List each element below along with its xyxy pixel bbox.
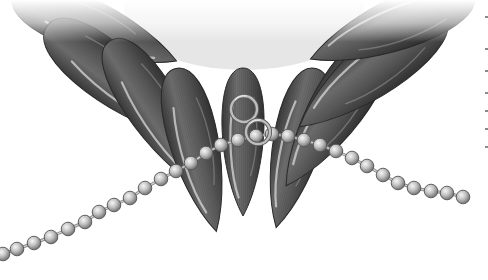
chain-bead bbox=[329, 144, 343, 158]
chain-bead bbox=[27, 236, 41, 250]
right-edge-marks bbox=[484, 0, 488, 160]
chain-bead bbox=[92, 205, 106, 219]
chain-bead bbox=[169, 164, 183, 178]
chain-bead bbox=[345, 151, 359, 165]
chain-bead bbox=[0, 247, 10, 261]
chain-bead bbox=[184, 156, 198, 170]
chain-bead bbox=[78, 215, 92, 229]
petal-fan-illustration bbox=[0, 0, 488, 280]
chain-bead bbox=[376, 168, 390, 182]
chain-bead bbox=[44, 230, 58, 244]
chain-bead bbox=[297, 133, 311, 147]
chain-bead bbox=[138, 181, 152, 195]
chain-bead bbox=[440, 186, 454, 200]
top-fade-overlay bbox=[0, 0, 488, 42]
chain-bead bbox=[231, 133, 245, 147]
chain-bead bbox=[313, 138, 327, 152]
chain-bead bbox=[10, 242, 24, 256]
chain-bead bbox=[61, 222, 75, 236]
chain-bead bbox=[391, 176, 405, 190]
chain-bead bbox=[199, 146, 213, 160]
chain-bead bbox=[456, 190, 470, 204]
chain-bead bbox=[123, 191, 137, 205]
chain-bead bbox=[214, 138, 228, 152]
chain-bead bbox=[424, 184, 438, 198]
chain-bead bbox=[281, 129, 295, 143]
illustration-canvas bbox=[0, 0, 488, 280]
chain-bead bbox=[407, 181, 421, 195]
chain-bead bbox=[107, 198, 121, 212]
chain-bead bbox=[154, 172, 168, 186]
chain-bead bbox=[360, 159, 374, 173]
